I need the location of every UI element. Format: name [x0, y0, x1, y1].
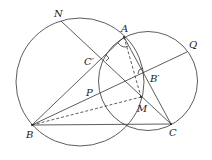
label-A: A — [120, 23, 128, 34]
label-P: P — [85, 87, 93, 98]
right-angle-C-prime — [106, 55, 109, 61]
label-M: M — [136, 103, 148, 114]
label-C: C — [169, 127, 177, 138]
point-C — [170, 123, 172, 125]
segment-BC — [32, 124, 171, 125]
label-B: B — [25, 129, 33, 140]
point-M — [140, 96, 142, 98]
segment-BQ — [32, 52, 187, 125]
label-B-prime: B′ — [149, 73, 160, 84]
label-N: N — [53, 8, 64, 19]
point-A — [123, 36, 125, 38]
segment-BM-dashed — [32, 97, 141, 125]
label-Q: Q — [189, 39, 197, 50]
label-C-prime: C′ — [84, 56, 95, 67]
segment-AC — [124, 37, 171, 124]
geometry-diagram: N A Q C′ B′ P M B C — [0, 0, 212, 160]
angle-arc-A — [118, 43, 128, 47]
point-B — [31, 124, 33, 126]
segment-BA — [32, 37, 124, 125]
